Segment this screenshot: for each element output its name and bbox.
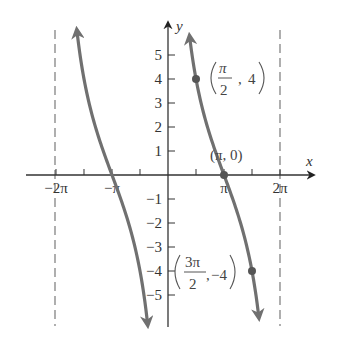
left-paren xyxy=(211,62,216,94)
annotation-numerator: π xyxy=(219,60,227,76)
y-tick-label: 1 xyxy=(155,143,163,159)
x-ticks: −2π−ππ2π xyxy=(44,169,288,196)
x-tick-label: −2π xyxy=(44,180,68,196)
point-marker xyxy=(248,267,256,275)
right-paren xyxy=(230,255,235,289)
y-tick-label: −3 xyxy=(146,239,162,255)
annotation-y-value: 4 xyxy=(248,71,256,87)
annotation-numerator: 3π xyxy=(185,254,201,270)
y-tick-label: 3 xyxy=(155,95,163,111)
y-tick-label: −5 xyxy=(146,287,162,303)
annotation-denominator: 2 xyxy=(189,276,197,292)
y-tick-label: 4 xyxy=(155,71,163,87)
y-tick-label: 5 xyxy=(155,47,163,63)
point-marker xyxy=(192,75,200,83)
y-tick-label: −2 xyxy=(146,215,162,231)
y-axis-label: y xyxy=(174,18,183,34)
x-tick-label: 2π xyxy=(272,180,288,196)
point-marker xyxy=(220,171,228,179)
y-tick-label: −1 xyxy=(146,191,162,207)
right-paren xyxy=(259,62,264,94)
x-axis-label: x xyxy=(305,153,313,169)
annotation-y-value: −4 xyxy=(211,267,227,283)
annotation-pi-0: (π, 0) xyxy=(210,147,243,164)
curve-left-branch xyxy=(77,31,148,324)
left-paren xyxy=(175,255,180,289)
y-tick-label: 2 xyxy=(155,119,163,135)
y-tick-label: −4 xyxy=(146,263,162,279)
cotangent-graph: x y −2π−ππ2π 54321−1−2−3−4−5 π 2 , 4 (π,… xyxy=(0,0,338,348)
axes: x y xyxy=(26,18,314,327)
annotation-separator: , xyxy=(238,71,242,87)
annotation-denominator: 2 xyxy=(220,82,228,98)
annotation-separator: , xyxy=(206,267,210,283)
annotation-3pi-over-2-neg4: 3π 2 , −4 xyxy=(175,254,235,292)
annotation-pi-over-2-4: π 2 , 4 xyxy=(211,60,264,98)
